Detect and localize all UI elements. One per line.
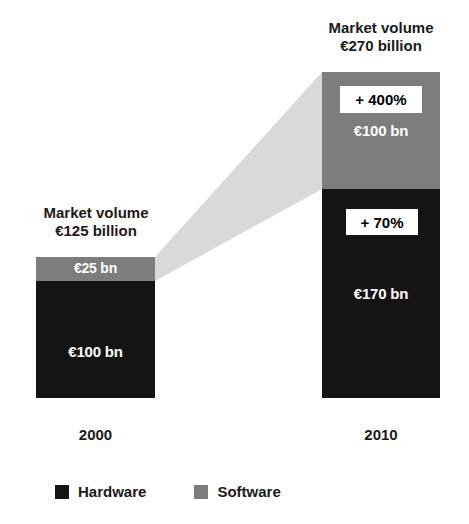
bar-2010-hardware-value: €170 bn — [322, 285, 440, 302]
bar-caption-2010-line2: €270 billion — [301, 37, 461, 55]
bar-caption-2010: Market volume €270 billion — [301, 19, 461, 54]
bar-2010-hardware-growth-badge: + 70% — [346, 209, 418, 235]
bar-caption-2000: Market volume €125 billion — [16, 204, 176, 239]
bar-caption-2010-line1: Market volume — [301, 19, 461, 37]
chart-legend: Hardware Software — [55, 483, 281, 500]
bar-2000-software-value: €25 bn — [36, 260, 155, 276]
bar-2010-segment-hardware[interactable]: + 70% €170 bn — [322, 189, 440, 398]
bar-caption-2000-line1: Market volume — [16, 204, 176, 222]
bar-2000-segment-software[interactable]: €25 bn — [36, 257, 155, 281]
bar-2000-segment-hardware[interactable]: €100 bn — [36, 281, 155, 398]
connector-polygon — [155, 72, 322, 281]
legend-label-software: Software — [217, 483, 280, 500]
chart-canvas: Market volume €125 billion €25 bn €100 b… — [0, 0, 469, 524]
bar-2010-software-value: €100 bn — [322, 122, 440, 139]
legend-swatch-software-icon — [194, 485, 208, 499]
legend-item-software[interactable]: Software — [194, 483, 280, 500]
year-label-2010: 2010 — [322, 426, 440, 443]
legend-item-hardware[interactable]: Hardware — [55, 483, 146, 500]
legend-swatch-hardware-icon — [55, 485, 69, 499]
bar-2010: + 400% €100 bn + 70% €170 bn — [322, 72, 440, 398]
year-label-2000: 2000 — [36, 426, 155, 443]
bar-2000-hardware-value: €100 bn — [36, 343, 155, 360]
legend-label-hardware: Hardware — [78, 483, 146, 500]
bar-2000: €25 bn €100 bn — [36, 257, 155, 398]
bar-2010-segment-software[interactable]: + 400% €100 bn — [322, 72, 440, 189]
bar-caption-2000-line2: €125 billion — [16, 222, 176, 240]
bar-2010-software-growth-badge: + 400% — [340, 86, 422, 113]
